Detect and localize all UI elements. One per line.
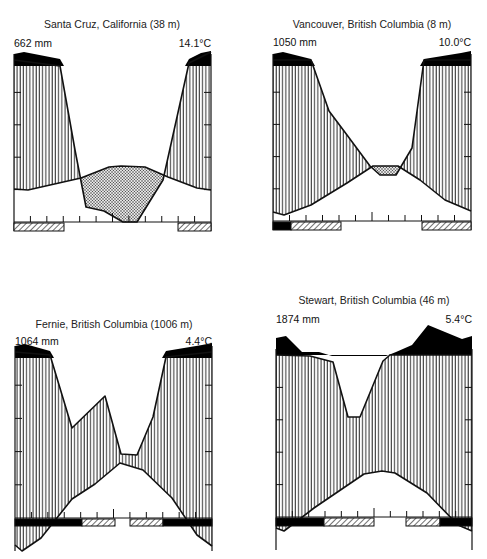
possible-frost-bar (324, 518, 374, 526)
temperature-label-vancouver: 10.0°C (439, 36, 472, 48)
perhumid-area (273, 52, 315, 66)
climate-diagram-stewart (276, 325, 472, 550)
frost-period-bar (440, 518, 472, 526)
possible-frost-bar (422, 222, 471, 230)
precipitation-label-santa-cruz: 662 mm (14, 37, 52, 49)
humid-period-area (273, 60, 371, 215)
temperature-label-stewart: 5.4°C (446, 313, 473, 325)
temperature-label-santa-cruz: 14.1°C (179, 37, 212, 49)
frost-period-bar (15, 519, 82, 526)
frost-period-bar (273, 222, 291, 230)
dry-period-area (81, 166, 165, 222)
possible-frost-bar (130, 519, 163, 526)
temperature-label-fernie: 4.4°C (186, 335, 213, 347)
climate-diagram-santa-cruz (14, 51, 211, 231)
chart-title-vancouver: Vancouver, British Columbia (8 m) (293, 18, 452, 30)
climate-diagram-vancouver (273, 51, 471, 230)
possible-frost-bar (82, 519, 115, 526)
possible-frost-bar (406, 518, 440, 526)
chart-title-santa-cruz: Santa Cruz, California (38 m) (44, 18, 180, 30)
frost-period-bar (276, 518, 324, 526)
humid-period-area (165, 52, 212, 190)
frost-period-bar (163, 519, 212, 526)
climate-diagram-fernie (15, 343, 212, 551)
precipitation-label-fernie: 1064 mm (15, 335, 59, 347)
possible-frost-bar (14, 223, 64, 231)
perhumid-area (420, 51, 471, 66)
possible-frost-bar (291, 222, 341, 230)
perhumid-area (276, 325, 472, 356)
precipitation-label-stewart: 1874 mm (276, 313, 320, 325)
precipitation-label-vancouver: 1050 mm (273, 36, 317, 48)
humid-period-area (401, 60, 472, 211)
chart-title-fernie: Fernie, British Columbia (1006 m) (36, 318, 193, 330)
chart-title-stewart: Stewart, British Columbia (46 m) (298, 294, 449, 306)
climate-diagrams-figure: Santa Cruz, California (38 m) 662 mm 14.… (0, 0, 487, 559)
possible-frost-bar (178, 223, 211, 231)
